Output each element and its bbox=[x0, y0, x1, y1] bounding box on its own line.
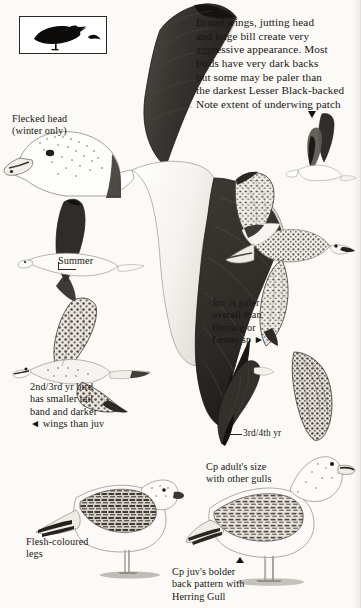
caption-flesh-legs: Flesh-coloured legs bbox=[26, 536, 122, 561]
caption-compare-juv-back: Cp juv's bolder back pattern with Herrin… bbox=[172, 566, 292, 603]
dark-wing-fragment bbox=[286, 352, 342, 442]
adult-summer-flight bbox=[18, 196, 148, 306]
summer-leader-horizontal bbox=[58, 269, 76, 270]
caption-juv-paler: Juv is paler overall than Herring or Les… bbox=[212, 297, 304, 347]
underwing-arrow-icon bbox=[308, 111, 316, 118]
caption-underwing-note: Note extent of underwing patch bbox=[196, 98, 360, 112]
summer-leader-vertical bbox=[58, 262, 59, 270]
caption-third-fourth-year: 3rd/4th yr bbox=[243, 428, 281, 439]
illustration-plate: Broad wings, jutting head and huge bill … bbox=[0, 0, 361, 608]
juvenile-standing-left bbox=[24, 462, 184, 582]
caption-flecked-head: Flecked head (winter only) bbox=[12, 113, 107, 138]
caption-second-third-year: 2nd/3rd yr bird has smaller tail band an… bbox=[30, 381, 150, 431]
third-fourth-leader bbox=[224, 434, 242, 435]
caption-main-note: Broad wings, jutting head and huge bill … bbox=[196, 16, 356, 98]
silhouette-comparison-box bbox=[19, 16, 107, 54]
compare-juv-back-arrow-icon bbox=[236, 557, 244, 563]
caption-compare-adult-size: Cp adult's size with other gulls bbox=[206, 461, 316, 486]
caption-summer: Summer bbox=[58, 255, 93, 267]
